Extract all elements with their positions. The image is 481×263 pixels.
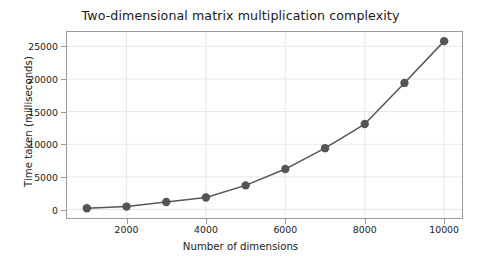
y-tick-mark [61,112,66,113]
plot-canvas [67,32,462,218]
data-point-marker [440,37,448,45]
y-tick-mark [61,144,66,145]
plot-area [66,31,463,219]
y-tick-label: 20000 [0,73,58,84]
x-tick-mark [365,219,366,224]
x-tick-label: 2000 [92,224,162,235]
x-tick-label: 10000 [409,224,479,235]
y-axis-label: Time taken (milliseconds) [23,32,34,212]
x-tick-label: 6000 [250,224,320,235]
y-tick-label: 5000 [0,171,58,182]
data-point-marker [361,120,369,128]
data-point-marker [400,79,408,87]
data-point-marker [281,165,289,173]
data-point-marker [202,193,210,201]
x-tick-mark [444,219,445,224]
gridlines [67,32,462,218]
chart-figure: Two-dimensional matrix multiplication co… [0,0,481,263]
y-tick-label: 0 [0,204,58,215]
y-tick-mark [61,46,66,47]
y-tick-label: 15000 [0,106,58,117]
x-axis-label: Number of dimensions [0,241,481,252]
y-tick-mark [61,210,66,211]
data-point-marker [241,181,249,189]
data-point-markers [83,37,449,212]
data-point-marker [162,198,170,206]
data-point-marker [321,144,329,152]
y-tick-label: 10000 [0,139,58,150]
x-tick-mark [285,219,286,224]
x-tick-label: 8000 [330,224,400,235]
data-series-line [87,41,444,208]
y-tick-label: 25000 [0,41,58,52]
chart-title: Two-dimensional matrix multiplication co… [0,8,481,23]
y-tick-mark [61,79,66,80]
y-tick-mark [61,177,66,178]
x-tick-label: 4000 [171,224,241,235]
series-line [87,41,444,208]
data-point-marker [83,204,91,212]
data-point-marker [122,202,130,210]
x-tick-mark [206,219,207,224]
x-tick-mark [127,219,128,224]
